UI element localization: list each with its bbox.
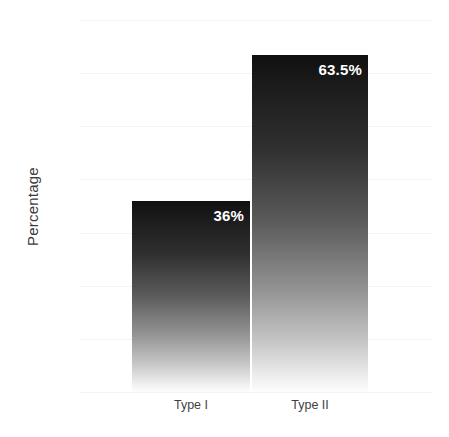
y-axis-title-label: Percentage xyxy=(24,7,41,407)
bar-chart: Percentage 36% 63.5% 70 60 50 40 30 20 1… xyxy=(0,0,449,437)
plot-area: 36% 63.5% xyxy=(80,20,432,392)
bar-type-ii[interactable]: 63.5% xyxy=(252,55,368,392)
x-tick-label-type-ii: Type II xyxy=(291,398,329,412)
x-tick-label-type-i: Type I xyxy=(174,398,208,412)
bar-value-type-i: 36% xyxy=(213,207,244,224)
bar-type-i[interactable]: 36% xyxy=(132,201,250,392)
bar-value-type-ii: 63.5% xyxy=(318,61,362,78)
gridline-70 xyxy=(80,20,432,21)
gridline-0 xyxy=(80,392,432,393)
